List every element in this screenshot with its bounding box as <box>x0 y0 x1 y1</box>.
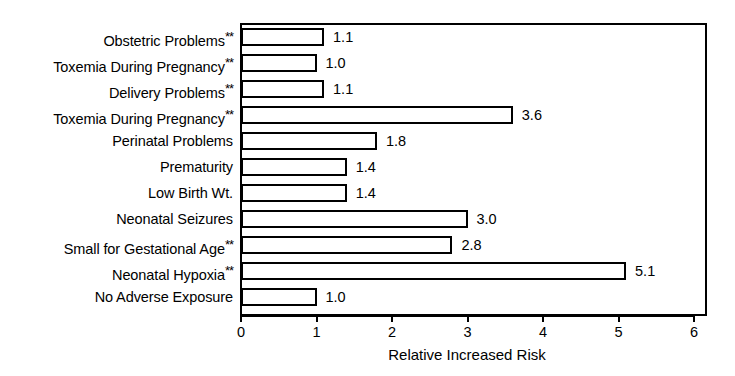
category-label-text: Perinatal Problems <box>112 133 233 149</box>
bar-value-label: 1.0 <box>326 54 346 72</box>
significance-marker: ** <box>225 82 233 95</box>
category-label: No Adverse Exposure <box>0 290 233 305</box>
bar-value-label: 5.1 <box>635 262 655 280</box>
category-label: Small for Gestational Age** <box>0 238 233 257</box>
bar-value-label: 3.6 <box>522 106 542 124</box>
bar-value-label: 1.1 <box>333 28 353 46</box>
x-tick <box>391 315 393 322</box>
relative-risk-bar-chart: Obstetric Problems**Toxemia During Pregn… <box>0 0 735 376</box>
bar-value-label: 2.8 <box>461 236 481 254</box>
x-tick-label: 4 <box>539 325 547 340</box>
bar <box>241 132 377 150</box>
x-axis-title: Relative Increased Risk <box>240 347 694 363</box>
bar-value-label: 1.0 <box>326 288 346 306</box>
category-label-text: Prematurity <box>160 159 233 175</box>
x-tick-label: 6 <box>690 325 698 340</box>
bar-value-label: 1.8 <box>386 132 406 150</box>
x-tick <box>316 315 318 322</box>
x-tick-label: 2 <box>388 325 396 340</box>
significance-marker: ** <box>225 30 233 43</box>
x-tick <box>693 315 695 322</box>
category-label: Low Birth Wt. <box>0 186 233 201</box>
bar-value-label: 1.4 <box>356 184 376 202</box>
bar <box>241 158 347 176</box>
x-tick <box>618 315 620 322</box>
bar <box>241 80 324 98</box>
category-label: Toxemia During Pregnancy** <box>0 56 233 75</box>
category-label-text: Neonatal Seizures <box>116 211 233 227</box>
category-label: Neonatal Seizures <box>0 212 233 227</box>
category-label-text: Toxemia During Pregnancy <box>53 111 225 127</box>
category-label: Delivery Problems** <box>0 82 233 101</box>
category-label-text: Obstetric Problems <box>103 33 225 49</box>
category-label-text: Small for Gestational Age <box>64 241 225 257</box>
category-label-text: Neonatal Hypoxia <box>112 267 225 283</box>
significance-marker: ** <box>225 108 233 121</box>
x-tick-label: 0 <box>237 325 245 340</box>
x-tick-label: 5 <box>614 325 622 340</box>
x-tick <box>467 315 469 322</box>
category-label: Perinatal Problems <box>0 134 233 149</box>
bar <box>241 106 513 124</box>
bar <box>241 28 324 46</box>
bar <box>241 210 468 228</box>
bars-layer: 1.11.01.13.61.81.41.43.02.85.11.0 <box>241 23 707 316</box>
category-label-text: Toxemia During Pregnancy <box>53 59 225 75</box>
x-tick-label: 3 <box>463 325 471 340</box>
category-label: Prematurity <box>0 160 233 175</box>
bar <box>241 54 317 72</box>
category-label: Neonatal Hypoxia** <box>0 264 233 283</box>
category-label: Toxemia During Pregnancy** <box>0 108 233 127</box>
category-label-text: Delivery Problems <box>109 85 225 101</box>
bar <box>241 262 626 280</box>
bar-value-label: 1.1 <box>333 80 353 98</box>
bar-value-label: 1.4 <box>356 158 376 176</box>
bar <box>241 184 347 202</box>
significance-marker: ** <box>225 238 233 251</box>
significance-marker: ** <box>225 264 233 277</box>
x-tick-label: 1 <box>312 325 320 340</box>
category-label-text: Low Birth Wt. <box>148 185 233 201</box>
x-tick <box>542 315 544 322</box>
x-tick <box>240 315 242 322</box>
category-label: Obstetric Problems** <box>0 30 233 49</box>
bar <box>241 288 317 306</box>
bar <box>241 236 452 254</box>
category-labels: Obstetric Problems**Toxemia During Pregn… <box>0 23 233 316</box>
category-label-text: No Adverse Exposure <box>95 289 233 305</box>
bar-value-label: 3.0 <box>477 210 497 228</box>
significance-marker: ** <box>225 56 233 69</box>
